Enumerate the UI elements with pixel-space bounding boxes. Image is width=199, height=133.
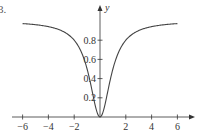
tick-labels: −6−4−22460.20.40.60.8 (17, 35, 180, 132)
x-tick-label: 2 (123, 121, 128, 132)
x-tick-label: 4 (149, 121, 154, 132)
x-tick-label: 6 (175, 121, 180, 132)
function-plot: −6−4−22460.20.40.60.8 y (0, 0, 199, 133)
y-axis-arrow-icon (98, 5, 103, 11)
x-axis-arrow-icon (189, 115, 195, 120)
axes (12, 5, 195, 120)
y-tick-label: 0.8 (84, 35, 97, 46)
x-tick-label: −4 (43, 121, 54, 132)
x-tick-label: −2 (69, 121, 80, 132)
x-tick-label: −6 (17, 121, 28, 132)
y-axis-label: y (104, 2, 110, 13)
